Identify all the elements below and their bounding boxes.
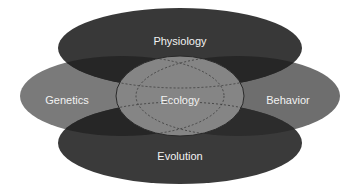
evolution-label: Evolution [157,150,202,162]
genetics-label: Genetics [45,94,89,106]
ecology-label: Ecology [160,94,200,106]
physiology-label: Physiology [153,35,207,47]
behavior-label: Behavior [266,94,310,106]
diagram-canvas: Physiology Genetics Ecology Behavior Evo… [0,0,360,192]
